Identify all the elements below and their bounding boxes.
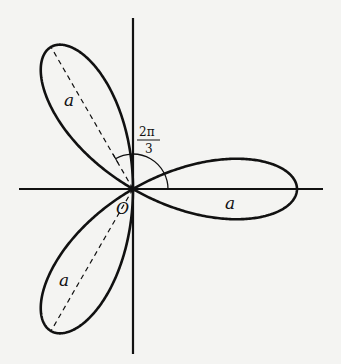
label-a-upper: a [64,90,74,110]
dashed-axis-upper-petal [51,47,133,189]
label-a-lower: a [59,270,69,290]
angle-arc-tick [113,154,118,163]
label-a-right: a [225,193,235,213]
label-origin: O [116,199,129,218]
angle-numerator: 2π [139,125,155,139]
rose-diagram: a a a O 2π 3 [0,0,341,364]
angle-denominator: 3 [145,142,153,156]
